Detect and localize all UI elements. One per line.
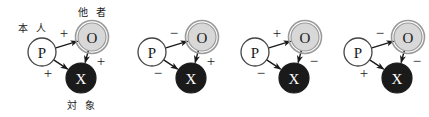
node-x-letter: X	[392, 71, 403, 87]
triad-diagram-3: POX+−−	[213, 0, 328, 117]
node-p-letter: P	[148, 45, 156, 61]
sign-p-to-x: +	[360, 65, 368, 81]
arrow-p-to-o	[166, 41, 187, 47]
arrow-p-to-o	[269, 41, 290, 47]
node-p-letter: P	[38, 45, 46, 61]
node-p-letter: P	[251, 45, 259, 61]
heider-triad-figure: POX+++本 人他 者対 象POX−+−POX+−−POX−−+	[0, 0, 429, 117]
node-x-letter: X	[186, 71, 197, 87]
sign-p-to-o: +	[60, 25, 68, 41]
sign-p-to-o: −	[170, 25, 178, 41]
node-o-letter: O	[300, 30, 311, 46]
arrow-p-to-x	[54, 60, 67, 69]
triad-diagram-4: POX−−+	[316, 0, 429, 117]
sign-p-to-x: −	[257, 65, 265, 81]
arrow-p-to-x	[370, 60, 383, 69]
arrow-p-to-x	[267, 60, 280, 69]
node-o-letter: O	[197, 30, 208, 46]
sign-p-to-o: −	[376, 25, 384, 41]
arrow-p-to-o	[372, 41, 393, 47]
sign-o-to-x: +	[97, 53, 105, 69]
sign-o-to-x: −	[413, 53, 421, 69]
sign-p-to-o: +	[273, 25, 281, 41]
label-x-taisho: 対 象	[67, 99, 96, 111]
node-x-letter: X	[76, 71, 87, 87]
node-o-letter: O	[87, 30, 98, 46]
node-x-letter: X	[289, 71, 300, 87]
label-p-honnin: 本 人	[18, 22, 47, 34]
arrow-p-to-o	[56, 41, 77, 47]
node-p-letter: P	[354, 45, 362, 61]
triad-diagram-2: POX−+−	[110, 0, 225, 117]
node-o-letter: O	[403, 30, 414, 46]
sign-p-to-x: −	[154, 65, 162, 81]
arrow-p-to-x	[164, 60, 177, 69]
triad-diagram-1: POX+++本 人他 者対 象	[0, 0, 115, 117]
sign-p-to-x: +	[44, 65, 52, 81]
label-o-tasha: 他 者	[78, 6, 107, 18]
